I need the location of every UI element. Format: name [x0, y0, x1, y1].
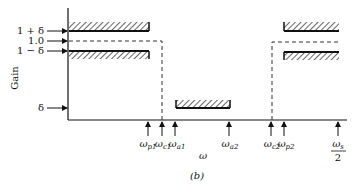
y-tick-label: 1 − δ	[17, 45, 44, 56]
y-axis-label: Gain	[9, 66, 20, 90]
y-tick-label: δ	[38, 102, 44, 113]
svg-text:ωs: ωs	[332, 138, 344, 151]
diagram-canvas: 1 + δ 1.0 1 − δ δ Gain ωp1 ωc1 ωa1 ωa2 ω…	[0, 0, 357, 192]
y-ticks: 1 + δ 1.0 1 − δ δ	[17, 25, 67, 113]
passband-1-tolerance	[69, 22, 149, 59]
x-axis-label: ω	[199, 150, 207, 161]
passband-2-tolerance	[284, 22, 339, 60]
x-tick-label-ws-half: ωs 2	[331, 138, 346, 163]
svg-text:2: 2	[335, 152, 341, 163]
x-ticks: ωp1 ωc1 ωa1 ωa2 ωc2 ωp2 ωs 2	[139, 122, 346, 163]
stopband-tolerance	[176, 100, 230, 108]
x-tick-label-wa2: ωa2	[222, 138, 239, 151]
bandstop-tolerance-diagram: 1 + δ 1.0 1 − δ δ Gain ωp1 ωc1 ωa1 ωa2 ω…	[0, 0, 357, 192]
figure-caption: (b)	[190, 170, 204, 181]
